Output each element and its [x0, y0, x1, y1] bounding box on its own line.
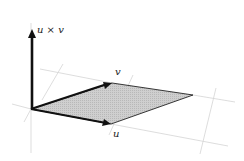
grid-line — [40, 69, 112, 83]
grid-line — [12, 104, 31, 109]
parallelogram — [31, 83, 193, 124]
label-u: u — [113, 128, 119, 139]
vector-cross — [28, 29, 36, 109]
label-v: v — [115, 66, 121, 77]
grid-line — [111, 124, 228, 146]
label-cross-product: u × v — [37, 24, 64, 35]
cross-product-diagram: u × v v u — [0, 0, 244, 161]
arrowhead-icon — [28, 29, 36, 38]
grid-line — [24, 109, 31, 122]
grid-line — [42, 64, 63, 100]
